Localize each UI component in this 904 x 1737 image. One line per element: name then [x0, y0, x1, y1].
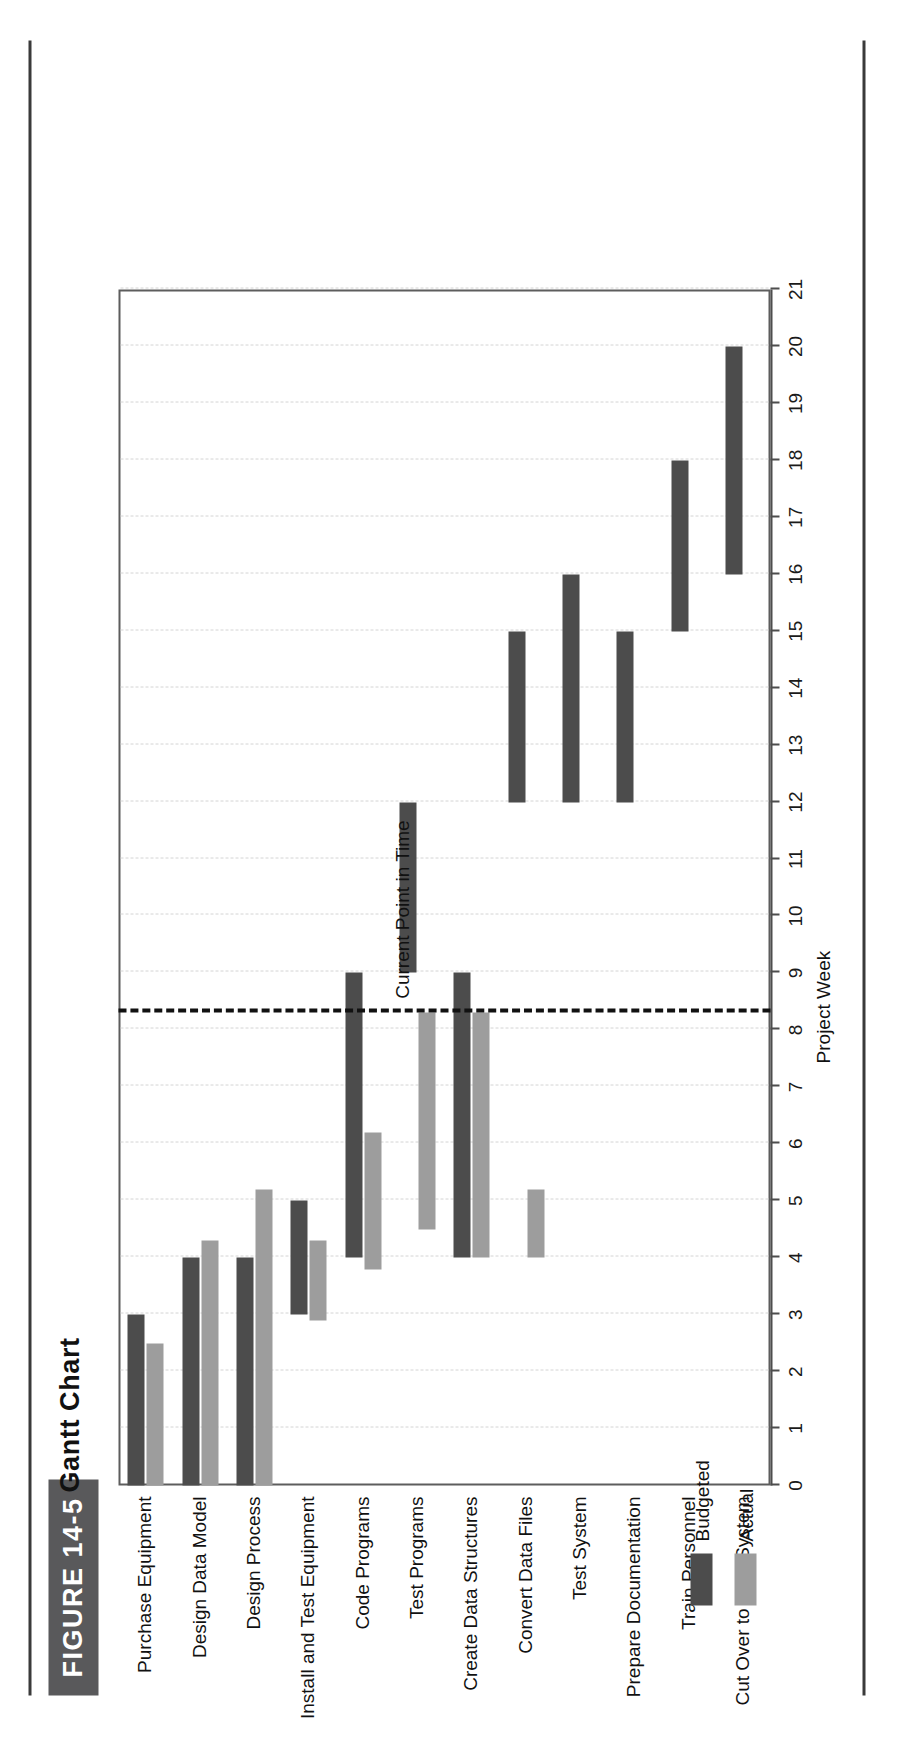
task-label: Convert Data Files: [514, 1496, 536, 1653]
x-axis-tick: [770, 1369, 779, 1371]
gridline: [120, 856, 768, 858]
legend-label-actual: Actual: [735, 1488, 757, 1541]
gridline: [120, 969, 768, 971]
gantt-bar-budgeted: [562, 574, 579, 802]
x-axis-tick-label: 17: [784, 497, 806, 537]
figure-number-badge: FIGURE 14-5: [48, 1479, 98, 1695]
gridline: [120, 286, 768, 288]
x-axis-tick-label: 21: [784, 269, 806, 309]
figure-page: FIGURE 14-5 Gantt Chart 0123456789101112…: [0, 0, 904, 1737]
gantt-bar-actual: [201, 1240, 218, 1485]
gantt-bar-actual: [309, 1240, 326, 1320]
x-axis-tick-label: 20: [784, 326, 806, 366]
x-axis-tick-label: 9: [784, 952, 806, 992]
legend-swatch-budgeted: [690, 1553, 712, 1605]
task-label: Design Data Model: [188, 1496, 210, 1658]
x-axis-tick: [770, 800, 779, 802]
x-axis-tick: [770, 515, 779, 517]
x-axis-tick: [770, 970, 779, 972]
gridline: [120, 1140, 768, 1142]
x-axis-tick-label: 2: [784, 1351, 806, 1391]
x-axis-tick: [770, 1084, 779, 1086]
x-axis-tick-label: 11: [784, 839, 806, 879]
x-axis-tick-label: 10: [784, 895, 806, 935]
x-axis-tick: [770, 913, 779, 915]
x-axis-tick-label: 0: [784, 1465, 806, 1505]
task-label: Design Process: [242, 1496, 264, 1629]
legend-label-budgeted: Budgeted: [691, 1460, 713, 1541]
x-axis-tick-label: 16: [784, 554, 806, 594]
gridline: [120, 799, 768, 801]
current-point-in-time-line: [118, 1008, 770, 1012]
x-axis-tick-label: 6: [784, 1123, 806, 1163]
task-label: Test System: [568, 1496, 590, 1599]
gantt-bar-actual: [364, 1132, 381, 1269]
task-label: Install and Test Equipment: [296, 1496, 318, 1719]
gantt-bar-budgeted: [182, 1257, 199, 1485]
top-rule: [28, 40, 31, 1695]
x-axis-tick: [770, 629, 779, 631]
gantt-bar-budgeted: [453, 972, 470, 1257]
task-label: Prepare Documentation: [622, 1496, 644, 1697]
x-axis-tick-label: 3: [784, 1294, 806, 1334]
legend-swatch-actual: [734, 1553, 756, 1605]
gantt-bar-actual: [255, 1189, 272, 1485]
x-axis-tick: [770, 686, 779, 688]
x-axis-tick-label: 19: [784, 383, 806, 423]
gantt-bar-budgeted: [671, 460, 688, 631]
task-label: Test Programs: [405, 1496, 427, 1618]
x-axis-tick: [770, 1141, 779, 1143]
gantt-bar-actual: [527, 1189, 544, 1257]
x-axis-tick: [770, 1483, 779, 1485]
task-label: Create Data Structures: [459, 1496, 481, 1690]
x-axis-tick-label: 12: [784, 782, 806, 822]
x-axis-tick: [770, 458, 779, 460]
x-axis-tick: [770, 1312, 779, 1314]
gantt-bar-budgeted: [345, 972, 362, 1257]
current-point-in-time-label: Current Point in Time: [391, 820, 413, 998]
gantt-bar-actual: [472, 1012, 489, 1257]
x-axis-tick: [770, 572, 779, 574]
x-axis-tick-label: 18: [784, 440, 806, 480]
x-axis-tick: [770, 743, 779, 745]
x-axis-tick-label: 15: [784, 611, 806, 651]
gridline: [120, 1026, 768, 1028]
gridline: [120, 343, 768, 345]
x-axis-tick: [770, 857, 779, 859]
gridline: [120, 685, 768, 687]
x-axis-tick: [770, 1255, 779, 1257]
x-axis-tick-label: 1: [784, 1408, 806, 1448]
x-axis-tick-label: 13: [784, 725, 806, 765]
gantt-bar-actual: [418, 1012, 435, 1228]
gridline: [120, 457, 768, 459]
gridline: [120, 742, 768, 744]
x-axis-tick-label: 4: [784, 1237, 806, 1277]
rotated-figure-canvas: FIGURE 14-5 Gantt Chart 0123456789101112…: [0, 0, 904, 1737]
gantt-bar-budgeted: [236, 1257, 253, 1485]
figure-title: Gantt Chart: [54, 1337, 85, 1492]
gantt-bar-budgeted: [725, 346, 742, 574]
gantt-bar-budgeted: [127, 1314, 144, 1485]
x-axis-title: Project Week: [812, 857, 834, 1157]
gridline: [120, 912, 768, 914]
gridline: [120, 400, 768, 402]
x-axis-line: [770, 289, 772, 1485]
gantt-bar-actual: [146, 1343, 163, 1485]
x-axis-tick-label: 14: [784, 668, 806, 708]
x-axis-tick: [770, 1027, 779, 1029]
x-axis-tick: [770, 287, 779, 289]
task-label: Code Programs: [351, 1496, 373, 1629]
x-axis-tick-label: 8: [784, 1009, 806, 1049]
gridline: [120, 1083, 768, 1085]
x-axis-tick-label: 7: [784, 1066, 806, 1106]
gantt-bar-budgeted: [508, 631, 525, 802]
task-label: Purchase Equipment: [133, 1496, 155, 1672]
gridline: [120, 1197, 768, 1199]
x-axis-tick-label: 5: [784, 1180, 806, 1220]
x-axis-tick: [770, 401, 779, 403]
bottom-rule: [862, 40, 865, 1695]
gantt-bar-budgeted: [290, 1200, 307, 1314]
gantt-bar-budgeted: [616, 631, 633, 802]
x-axis-tick: [770, 1198, 779, 1200]
x-axis-tick: [770, 1426, 779, 1428]
